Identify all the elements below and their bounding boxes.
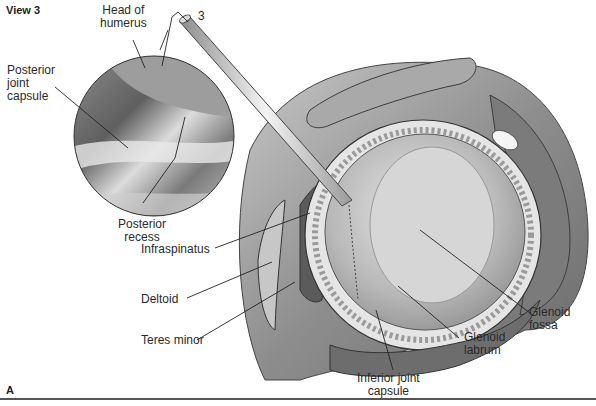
label-line: capsule: [7, 90, 55, 103]
magnified-inset: [60, 40, 240, 216]
label-line: humerus: [100, 17, 147, 30]
label-deltoid: Deltoid: [141, 293, 178, 306]
bottom-rule: [0, 398, 596, 400]
label-glenoid-labrum: Glenoid labrum: [464, 331, 505, 357]
shoulder-arthroscopy-illustration: [0, 0, 596, 406]
label-teres-minor: Teres minor: [141, 334, 204, 347]
label-posterior-recess: Posterior recess: [118, 218, 166, 244]
label-line: fossa: [529, 319, 570, 332]
label-glenoid-fossa: Glenoid fossa: [529, 306, 570, 332]
label-line: capsule: [357, 385, 420, 398]
instrument-number: 3: [198, 10, 205, 23]
label-inferior-joint-capsule: Inferior joint capsule: [357, 372, 420, 398]
panel-label: A: [6, 384, 14, 396]
label-line: labrum: [464, 344, 505, 357]
label-infraspinatus: Infraspinatus: [141, 243, 210, 256]
label-head-of-humerus: Head of humerus: [100, 4, 147, 30]
view-label: View 3: [6, 4, 40, 16]
label-posterior-joint-capsule: Posterior joint capsule: [7, 64, 55, 103]
